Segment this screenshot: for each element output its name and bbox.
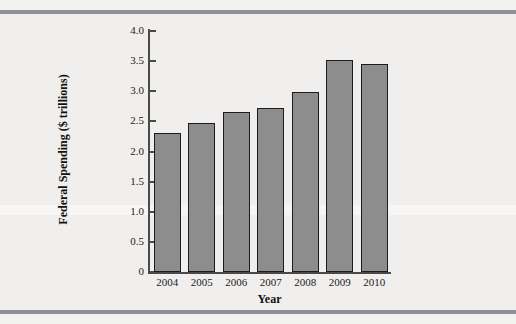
x-axis-label-2007: 2007	[254, 276, 289, 289]
y-axis-tick-label-text: 0.5	[110, 236, 144, 247]
bar-2004	[154, 133, 181, 272]
bar-2007	[257, 108, 284, 272]
y-axis-tick-label-text: 3.0	[110, 85, 144, 96]
x-axis-label-2009: 2009	[323, 276, 358, 289]
bar-chart-plot-area: 4.03.53.02.52.01.51.00.50 20042005200620…	[0, 0, 516, 324]
y-axis-tick-label: 0.5	[104, 236, 144, 247]
y-axis-tick-label-text: 1.0	[110, 206, 144, 217]
y-axis-tick	[150, 60, 156, 62]
y-axis-tick-label: 3.0	[104, 85, 144, 96]
bar-2006	[223, 112, 250, 272]
y-axis-tick-label-text: 4.0	[110, 25, 144, 36]
y-axis-tick-label: 2.5	[104, 115, 144, 126]
y-axis-tick-label: 1.0	[104, 206, 144, 217]
x-axis-label-2004: 2004	[150, 276, 185, 289]
y-axis-tick	[150, 30, 156, 32]
y-axis-title: Federal Spending ($ trillions)	[56, 35, 71, 265]
figure-panel: 4.03.53.02.52.01.51.00.50 20042005200620…	[0, 0, 516, 324]
y-axis-tick-label-text: 2.0	[110, 146, 144, 157]
x-axis-title: Year	[148, 292, 391, 307]
y-axis-tick-label: 0	[104, 266, 144, 277]
y-axis-tick-label: 1.5	[104, 176, 144, 187]
x-axis-label-2006: 2006	[219, 276, 254, 289]
y-axis-tick-label-text: 2.5	[110, 115, 144, 126]
x-axis-label-2008: 2008	[288, 276, 323, 289]
y-axis-tick-label-text: 1.5	[110, 176, 144, 187]
y-axis-tick	[150, 90, 156, 92]
x-axis-label-2010: 2010	[357, 276, 392, 289]
y-axis-tick-label: 2.0	[104, 146, 144, 157]
y-axis-tick-label-text: 3.5	[110, 55, 144, 66]
y-axis-tick-label-text: 0	[110, 266, 144, 277]
x-axis-label-2005: 2005	[185, 276, 220, 289]
y-axis-tick-label: 4.0	[104, 25, 144, 36]
bar-2009	[326, 60, 353, 272]
bar-2005	[188, 123, 215, 272]
y-axis-tick	[150, 120, 156, 122]
bar-2010	[361, 64, 388, 272]
x-axis-line	[148, 272, 391, 274]
y-axis-tick-label: 3.5	[104, 55, 144, 66]
bar-2008	[292, 92, 319, 272]
